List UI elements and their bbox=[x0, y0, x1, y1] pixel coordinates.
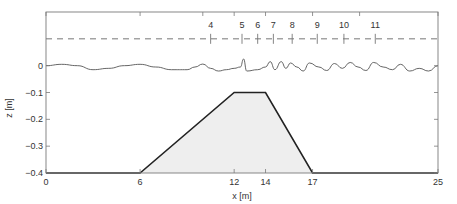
x-tick-label: 12 bbox=[229, 177, 239, 187]
x-tick-label: 0 bbox=[43, 177, 48, 187]
wave-flume-chart: 0612141725 0−0.1−0.2−0.3−0.4 4567891011 … bbox=[0, 0, 457, 204]
gauge-label: 10 bbox=[339, 20, 349, 30]
x-tick-label: 14 bbox=[261, 177, 271, 187]
gauge-label: 4 bbox=[208, 20, 213, 30]
x-tick-label: 25 bbox=[433, 177, 443, 187]
x-tick-label: 17 bbox=[308, 177, 318, 187]
gauge-label: 8 bbox=[290, 20, 295, 30]
gauge-markers: 4567891011 bbox=[208, 20, 380, 44]
gauge-label: 5 bbox=[239, 20, 244, 30]
x-tick-label: 6 bbox=[138, 177, 143, 187]
bar-fill bbox=[46, 93, 438, 174]
y-tick-label: −0.4 bbox=[25, 168, 43, 178]
y-tick-label: −0.3 bbox=[25, 141, 43, 151]
plot-area bbox=[46, 39, 438, 173]
gauge-label: 9 bbox=[315, 20, 320, 30]
x-axis-label: x [m] bbox=[232, 191, 252, 201]
y-axis-label: z [m] bbox=[4, 98, 14, 118]
gauge-label: 6 bbox=[255, 20, 260, 30]
gauge-label: 11 bbox=[371, 20, 380, 30]
free-surface-line bbox=[46, 59, 438, 71]
y-tick-label: −0.1 bbox=[25, 88, 43, 98]
gauge-label: 7 bbox=[271, 20, 276, 30]
y-tick-label: −0.2 bbox=[25, 114, 43, 124]
y-tick-label: 0 bbox=[38, 61, 43, 71]
